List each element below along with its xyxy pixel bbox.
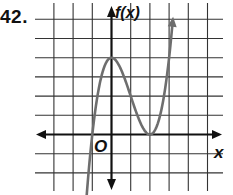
axes (36, 6, 222, 190)
origin-label: O (94, 137, 107, 156)
y-axis-label: f(x) (115, 4, 140, 21)
x-axis-label: x (213, 143, 225, 162)
function-curve (86, 23, 173, 195)
grid-lines (35, 3, 223, 191)
function-graph: f(x) x O (0, 0, 233, 195)
